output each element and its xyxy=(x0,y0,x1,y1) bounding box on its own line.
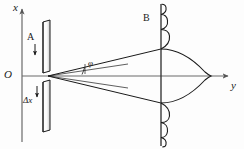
secondary-maximum-lower-1 xyxy=(161,103,170,123)
secondary-maximum-upper-1 xyxy=(161,30,170,50)
screen-label: B xyxy=(143,13,150,23)
slit-bar-upper xyxy=(43,20,50,73)
y-axis-label: y xyxy=(231,80,236,91)
diffraction-diagram-svg xyxy=(0,0,244,149)
slit-plate-label: A xyxy=(27,32,34,42)
cone-ray-inner-lower xyxy=(48,76,128,88)
cone-ray-lower xyxy=(48,76,161,103)
angle-phi-marker xyxy=(82,64,85,75)
secondary-maximum-lower-2 xyxy=(161,123,168,138)
secondary-maximum-lower-3 xyxy=(161,138,166,147)
cone-ray-upper xyxy=(48,49,161,76)
slit-bar-lower xyxy=(43,80,50,132)
measure-arrows xyxy=(35,44,37,97)
origin-label: O xyxy=(4,69,12,80)
x-axis-label: x xyxy=(13,2,18,13)
secondary-maximum-upper-3 xyxy=(161,4,166,14)
slit-width-label: Δx xyxy=(23,96,32,105)
angle-label: φ xyxy=(88,59,93,68)
diffraction-figure: x y O A Δx B φ xyxy=(0,0,244,149)
secondary-maximum-upper-2 xyxy=(161,15,168,30)
